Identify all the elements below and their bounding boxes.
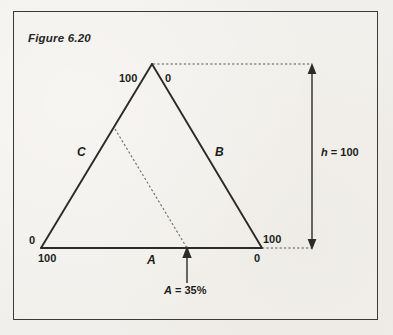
height-value: = 100 <box>328 146 359 158</box>
triangle-side-b <box>152 64 262 248</box>
scale-label-bottom-left-lower: 100 <box>38 253 56 264</box>
composition-symbol: A <box>164 284 172 296</box>
scale-label-apex-right: 0 <box>165 73 171 84</box>
composition-callout-label: A = 35% <box>164 285 207 296</box>
side-label-b: B <box>215 146 224 158</box>
scale-label-bottom-left-upper: 0 <box>29 235 35 246</box>
construction-line-dashed <box>115 129 187 248</box>
composition-value: = 35% <box>172 284 207 296</box>
height-dimension-arrowhead-down <box>308 239 317 250</box>
scale-label-bottom-right-upper: 100 <box>263 234 281 245</box>
side-label-a: A <box>147 254 156 266</box>
side-label-c: C <box>77 146 86 158</box>
scale-label-bottom-right-lower: 0 <box>254 253 260 264</box>
figure-container: Figure 6.20 100 0 0 100 100 0 A B C h = … <box>0 0 393 335</box>
height-dimension-arrowhead-up <box>308 63 317 74</box>
scale-label-apex-left: 100 <box>119 73 137 84</box>
height-symbol: h <box>321 146 328 158</box>
height-dimension-label: h = 100 <box>321 147 359 158</box>
triangle-side-c <box>41 64 152 248</box>
